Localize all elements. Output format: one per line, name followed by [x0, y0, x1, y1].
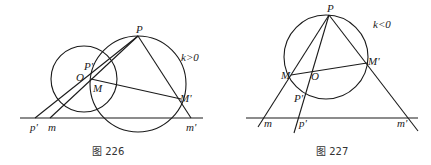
label-M-prime: M': [179, 92, 192, 104]
segment-M-to-M-prime: [291, 63, 367, 75]
label-P: P: [326, 2, 334, 14]
line-m-to-P: [50, 36, 138, 118]
label-P-prime: P': [83, 60, 94, 72]
caption-227: 图 227: [316, 146, 348, 157]
label-m: m: [48, 121, 56, 133]
circle: [284, 15, 368, 99]
label-m-prime: m': [186, 121, 197, 133]
label-p-prime: p': [29, 121, 39, 133]
label-condition: k<0: [373, 18, 391, 30]
label-M: M: [280, 69, 291, 81]
figure-227: P k<0 M' M O P' m p' m' 图 227: [246, 2, 418, 157]
label-p-prime: p': [298, 117, 308, 129]
label-M-prime: M': [367, 55, 380, 67]
caption-226: 图 226: [92, 146, 124, 157]
figure-226: P P' O M M' k>0 p' m m' 图 226: [20, 23, 203, 157]
label-condition: k>0: [181, 51, 199, 63]
label-P-prime: P': [293, 92, 304, 104]
geometry-figures: P P' O M M' k>0 p' m m' 图 226 P k<0 M' M…: [0, 0, 431, 165]
label-O: O: [311, 70, 319, 82]
label-m: m: [264, 117, 272, 129]
label-O: O: [76, 71, 84, 83]
line-p-prime-to-P: [35, 36, 138, 118]
line-P-to-m-prime: [329, 15, 418, 131]
label-m-prime: m': [397, 117, 408, 129]
label-P: P: [135, 23, 143, 35]
line-P-to-m-prime: [138, 36, 191, 118]
label-M: M: [92, 82, 103, 94]
